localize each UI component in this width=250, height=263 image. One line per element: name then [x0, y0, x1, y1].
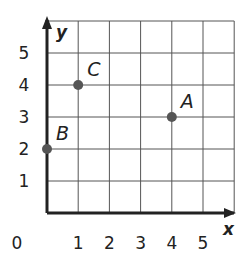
x-axis-label: x [222, 219, 235, 239]
x-tick-label: 4 [166, 233, 177, 253]
tick-labels: 01234512345 [12, 43, 209, 253]
x-tick-label: 3 [135, 233, 146, 253]
x-tick-label: 2 [104, 233, 115, 253]
axes: x y [42, 16, 236, 239]
x-tick-label: 1 [73, 233, 84, 253]
point-label-b: B [56, 122, 69, 144]
data-points: ABC [42, 58, 194, 154]
point-label-a: A [179, 90, 194, 112]
coordinate-plane: x y 01234512345 ABC [0, 0, 250, 263]
y-tick-label: 4 [19, 75, 30, 95]
point-a [167, 112, 177, 122]
point-label-c: C [87, 58, 101, 80]
y-axis-label: y [56, 22, 68, 42]
grid-lines [47, 21, 234, 213]
x-tick-label: 5 [198, 233, 209, 253]
x-tick-label: 0 [12, 233, 23, 253]
y-tick-label: 5 [19, 43, 30, 63]
point-c [73, 80, 83, 90]
point-b [42, 144, 52, 154]
y-tick-label: 2 [19, 139, 30, 159]
y-tick-label: 3 [19, 107, 30, 127]
y-axis-arrow-icon [42, 16, 52, 29]
y-tick-label: 1 [19, 171, 30, 191]
